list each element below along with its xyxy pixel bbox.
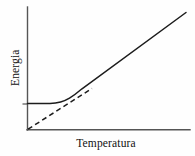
y-axis-label: Energia [9,49,22,86]
energy-curve [28,13,187,104]
energy-temperature-figure: Energia Temperatura [0,0,195,156]
asymptote-dashed-line [28,89,92,130]
x-axis-label: Temperatura [76,137,136,150]
plot-area: Energia Temperatura [0,0,195,156]
